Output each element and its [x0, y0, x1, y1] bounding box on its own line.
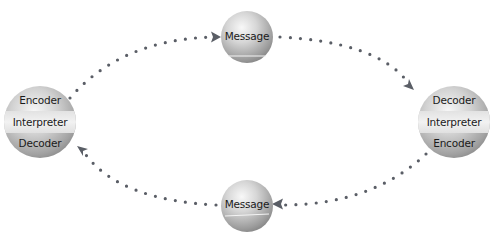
right-interpreter-label: Interpreter — [427, 116, 482, 128]
right-communicator-node: Decoder Interpreter Encoder — [414, 86, 493, 158]
bottom-message-label: Message — [225, 198, 270, 210]
connector-bottom-message-to-left — [77, 146, 216, 205]
arrowhead-icon — [272, 199, 283, 210]
connector-right-to-bottom-message — [272, 154, 426, 210]
top-message-label: Message — [225, 30, 270, 42]
arrowhead-icon — [403, 79, 414, 90]
left-communicator-node: Encoder Interpreter Decoder — [0, 86, 80, 158]
right-decoder-label: Decoder — [433, 94, 477, 106]
communication-cycle-diagram: Encoder Interpreter Decoder Decoder Inte… — [0, 0, 493, 242]
left-encoder-label: Encoder — [19, 94, 61, 106]
left-interpreter-label: Interpreter — [13, 116, 68, 128]
arrowhead-icon — [211, 32, 221, 43]
left-decoder-label: Decoder — [19, 137, 63, 149]
bottom-message-node: Message — [221, 180, 273, 232]
right-encoder-label: Encoder — [433, 137, 475, 149]
top-message-node: Message — [221, 11, 273, 63]
connector-left-to-top-message — [70, 32, 221, 99]
connector-top-message-to-right — [280, 37, 414, 90]
